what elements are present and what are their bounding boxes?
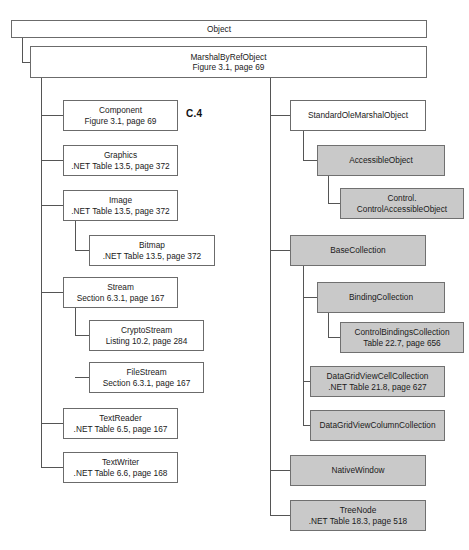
node-stream[interactable]: StreamSection 6.3.1, page 167: [63, 277, 178, 308]
node-title: Control.: [387, 193, 416, 203]
node-title: DataGridViewColumnCollection: [319, 420, 435, 430]
node-title: DataGridViewCellCollection: [327, 371, 429, 381]
node-title: MarshalByRefObject: [190, 52, 266, 62]
connector-standardolemarshalobject-to-accessibleobject: [303, 131, 317, 160]
node-title: Image: [109, 195, 132, 205]
node-subtitle: .NET Table 6.5, page 167: [74, 424, 168, 434]
connector-basecollection-to-bindingcollection: [303, 266, 317, 297]
node-accessibleobject[interactable]: AccessibleObject: [317, 145, 445, 176]
node-subtitle: .NET Table 13.5, page 372: [71, 161, 169, 171]
connector-accessibleobject-to-control-controlaccessibleobject: [328, 176, 340, 203]
node-title: Graphics: [104, 150, 137, 160]
node-subtitle: Listing 10.2, page 284: [106, 336, 188, 346]
node-title: TreeNode: [340, 505, 377, 515]
node-subtitle: ControlAccessibleObject: [357, 204, 447, 214]
class-hierarchy-diagram: ObjectMarshalByRefObjectFigure 3.1, page…: [0, 0, 469, 550]
node-title: ControlBindingsCollection: [354, 327, 449, 337]
node-graphics[interactable]: Graphics.NET Table 13.5, page 372: [63, 145, 178, 176]
node-basecollection[interactable]: BaseCollection: [290, 235, 426, 266]
node-title: Object: [207, 24, 231, 34]
node-title: Stream: [107, 282, 134, 292]
node-title: BindingCollection: [349, 292, 413, 302]
node-subtitle: .NET Table 6.6, page 168: [74, 468, 168, 478]
node-datagridviewcellcollection[interactable]: DataGridViewCellCollection.NET Table 21.…: [310, 366, 445, 397]
node-cryptostream[interactable]: CryptoStreamListing 10.2, page 284: [89, 320, 204, 351]
node-bindingcollection[interactable]: BindingCollection: [317, 282, 445, 313]
node-title: FileStream: [126, 367, 166, 377]
node-control-controlaccessibleobject[interactable]: Control.ControlAccessibleObject: [340, 188, 464, 219]
connector-marshalbyrefobject-to-component: [41, 78, 63, 115]
node-filestream[interactable]: FileStreamSection 6.3.1, page 167: [89, 362, 204, 393]
node-object[interactable]: Object: [11, 20, 427, 38]
connector-bindingcollection-to-controlbindingscollection: [328, 313, 340, 337]
node-subtitle: Section 6.3.1, page 167: [103, 378, 191, 388]
node-title: CryptoStream: [121, 325, 172, 335]
node-controlbindingscollection[interactable]: ControlBindingsCollectionTable 22.7, pag…: [340, 322, 464, 353]
node-title: BaseCollection: [330, 245, 385, 255]
node-textwriter[interactable]: TextWriter.NET Table 6.6, page 168: [63, 452, 178, 483]
node-title: TextWriter: [102, 457, 139, 467]
connector-image-to-bitmap: [75, 221, 89, 250]
node-subtitle: Figure 3.1, page 69: [193, 62, 265, 72]
node-datagridviewcolumncollection[interactable]: DataGridViewColumnCollection: [310, 410, 445, 441]
node-title: Bitmap: [139, 240, 165, 250]
node-component[interactable]: ComponentFigure 3.1, page 69: [63, 100, 178, 131]
node-title: StandardOleMarshalObject: [308, 110, 408, 120]
node-bitmap[interactable]: Bitmap.NET Table 13.5, page 372: [89, 235, 215, 266]
node-subtitle: .NET Table 18.3, page 518: [309, 516, 407, 526]
node-subtitle: .NET Table 13.5, page 372: [103, 251, 201, 261]
connector-stream-to-cryptostream: [75, 308, 89, 335]
node-standardolemarshalobject[interactable]: StandardOleMarshalObject: [290, 100, 426, 131]
node-title: Component: [99, 105, 142, 115]
node-subtitle: Section 6.3.1, page 167: [77, 293, 165, 303]
node-subtitle: .NET Table 13.5, page 372: [71, 206, 169, 216]
figure-label: C.4: [186, 108, 202, 119]
node-title: TextReader: [99, 413, 141, 423]
node-textreader[interactable]: TextReader.NET Table 6.5, page 167: [63, 408, 178, 439]
node-image[interactable]: Image.NET Table 13.5, page 372: [63, 190, 178, 221]
node-title: NativeWindow: [331, 465, 384, 475]
node-nativewindow[interactable]: NativeWindow: [290, 455, 426, 486]
node-marshalbyrefobject[interactable]: MarshalByRefObjectFigure 3.1, page 69: [30, 46, 427, 78]
node-subtitle: Figure 3.1, page 69: [85, 116, 157, 126]
node-treenode[interactable]: TreeNode.NET Table 18.3, page 518: [290, 500, 426, 531]
connector-object-to-marshalbyrefobject: [22, 38, 30, 62]
node-title: AccessibleObject: [349, 155, 413, 165]
node-subtitle: .NET Table 21.8, page 627: [328, 382, 426, 392]
node-subtitle: Table 22.7, page 656: [363, 338, 441, 348]
